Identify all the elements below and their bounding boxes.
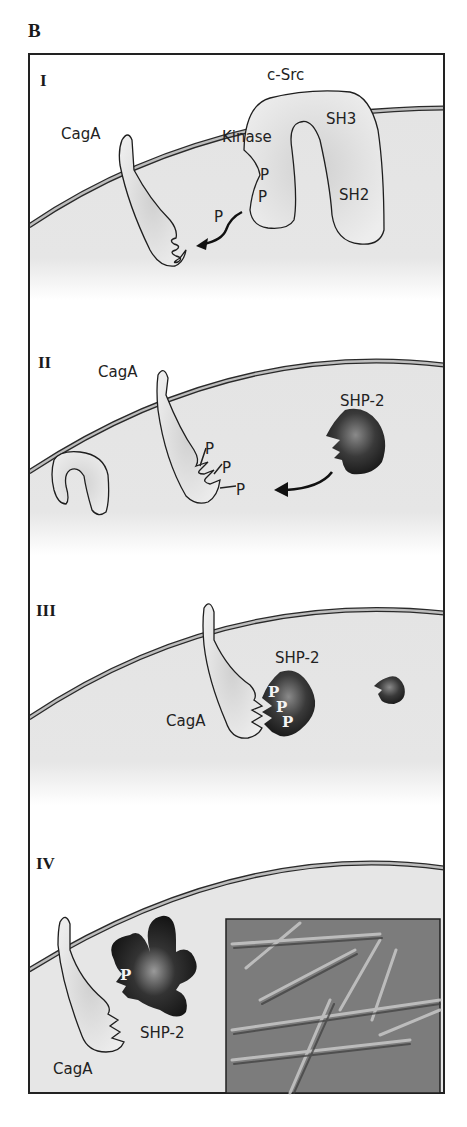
shp2-label: SHP-2 [340,392,384,410]
phosphate-label: P [236,481,245,499]
panel-3-numeral: III [36,601,56,620]
phosphate-label: P [282,713,293,731]
caga-label: CagA [98,363,138,381]
kinase-label: Kinase [222,128,272,146]
phosphate-label: P [222,459,231,477]
panel-2-numeral: II [38,353,52,372]
sh3-label: SH3 [326,110,356,128]
caga-label: CagA [166,712,206,730]
caga-label: CagA [53,1060,93,1078]
panel-1-numeral: I [40,71,47,90]
shp2-label: SHP-2 [275,649,319,667]
micrograph-inset [226,919,440,1093]
diagram-canvas: I CagA c-Src Kinase SH3 SH2 P P P II Cag… [0,0,467,1127]
phosphate-label: P [260,166,269,184]
caga-label: CagA [61,125,101,143]
phosphate-label: P [205,440,214,458]
phosphate-transfer-label: P [214,208,223,226]
phosphate-label: P [120,966,131,984]
c-src-label: c-Src [267,66,304,84]
shp2-label: SHP-2 [140,1024,184,1042]
panel-4-numeral: IV [36,854,56,873]
phosphate-label: P [258,188,267,206]
sh2-label: SH2 [339,186,369,204]
